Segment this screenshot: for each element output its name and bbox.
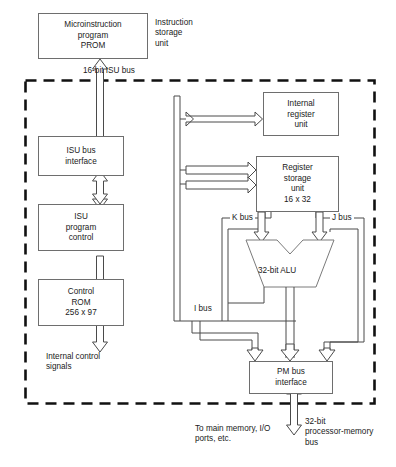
block-isu-program-control: ISU program control [38, 204, 124, 251]
alu-shape [246, 240, 334, 287]
label-alu: 32-bit ALU [258, 266, 296, 276]
register-storage-input-arrow-top [186, 162, 256, 178]
alu-output-arrow [281, 344, 299, 361]
label-instruction-storage-unit: Instruction storage unit [155, 18, 193, 49]
block-isu-program-control-label: ISU program control [39, 212, 123, 244]
block-control-rom-label: Control ROM 256 x 97 [39, 287, 123, 319]
block-register-storage-unit-label: Register storage unit 16 x 32 [257, 163, 338, 205]
block-isu-bus-interface-label: ISU bus interface [39, 146, 123, 167]
label-internal-control-signals: Internal control signals [46, 352, 100, 373]
register-storage-input-arrow-bottom [186, 177, 256, 193]
label-isu-bus: 16-bit ISU bus [83, 66, 135, 76]
block-register-storage-unit: Register storage unit 16 x 32 [256, 156, 339, 212]
alu-right-input-arrow [312, 212, 327, 242]
internal-register-bidir-arrow [186, 112, 263, 126]
label-to-main-memory: To main memory, I/O ports, etc. [195, 424, 270, 445]
block-isu-bus-interface: ISU bus interface [38, 136, 124, 176]
block-control-rom: Control ROM 256 x 97 [38, 279, 124, 326]
label-processor-memory-bus: 32-bit processor-memory bus [305, 417, 373, 448]
block-pm-bus-interface: PM bus interface [249, 361, 333, 394]
pm-bus-input-arrow-left [247, 348, 263, 361]
block-pm-bus-interface-label: PM bus interface [250, 367, 332, 388]
block-internal-register-unit-label: Internal register unit [264, 99, 338, 131]
block-prom: Microinstruction program PROM [38, 13, 148, 59]
label-i-bus: I bus [192, 304, 214, 314]
block-prom-label: Microinstruction program PROM [39, 20, 147, 52]
label-k-bus: K bus [230, 213, 255, 223]
internal-control-signals-arrow [93, 325, 108, 352]
architecture-diagram: .ln{stroke:#4a4a4a;stroke-width:1;fill:n… [0, 0, 396, 467]
block-internal-register-unit: Internal register unit [263, 92, 339, 136]
alu-left-input-arrow [254, 212, 269, 242]
pm-bus-input-arrow-right [319, 348, 335, 361]
label-j-bus: J bus [330, 213, 354, 223]
